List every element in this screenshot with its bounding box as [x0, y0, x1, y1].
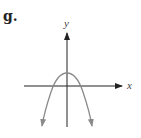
- x-axis-label: x: [126, 79, 132, 91]
- parabola-left-branch: [42, 73, 67, 126]
- y-axis-label: y: [63, 17, 69, 29]
- parabola-right-branch: [67, 73, 92, 126]
- parabola-graph: y x: [0, 0, 141, 138]
